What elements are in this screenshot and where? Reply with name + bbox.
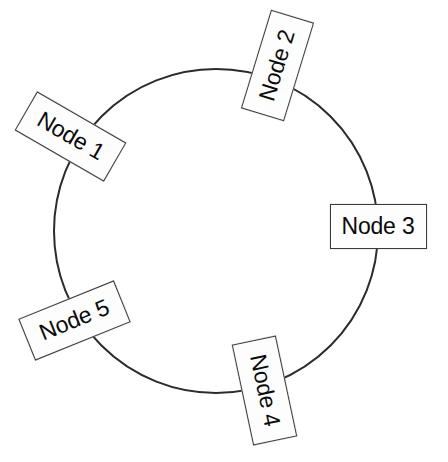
node-label-4-text: Node 4	[246, 352, 284, 428]
node-label-3-text: Node 3	[342, 214, 415, 237]
node-label-2-text: Node 2	[255, 27, 298, 104]
diagram-canvas: Node 1 Node 2 Node 3 Node 4 Node 5	[0, 0, 448, 462]
node-label-3[interactable]: Node 3	[330, 204, 427, 249]
